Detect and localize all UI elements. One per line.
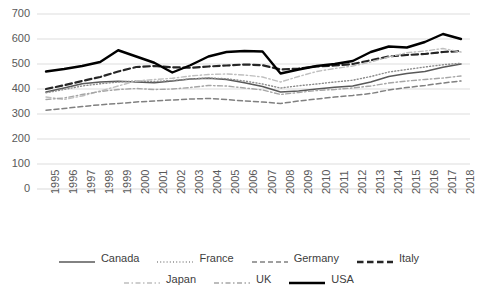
line-chart: 7006005004003002001000 19951996199719981…	[0, 0, 478, 297]
x-tick-label: 2014	[393, 170, 404, 194]
legend-swatch	[214, 278, 250, 288]
chart-legend: CanadaFranceGermanyItaly JapanUKUSA	[0, 248, 478, 297]
y-tick-label: 0	[0, 183, 30, 194]
legend-swatch-france	[157, 253, 193, 263]
x-tick-label: 2000	[140, 170, 151, 194]
x-tick-label: 2002	[176, 170, 187, 194]
legend-label: Japan	[166, 274, 196, 285]
legend-swatch-usa	[289, 274, 325, 284]
legend-item-germany[interactable]: Germany	[252, 253, 339, 264]
x-tick-label: 2003	[194, 170, 205, 194]
y-tick-label: 500	[0, 58, 30, 69]
legend-row-2: JapanUKUSA	[0, 269, 478, 289]
y-tick-label: 700	[0, 8, 30, 19]
x-tick-label: 2017	[447, 170, 458, 194]
x-tick-label: 2006	[248, 170, 259, 194]
x-tick-label: 1996	[68, 170, 79, 194]
legend-item-japan[interactable]: Japan	[124, 274, 196, 285]
legend-swatch-canada	[59, 253, 95, 263]
y-tick-label: 100	[0, 158, 30, 169]
legend-swatch	[357, 257, 393, 267]
series-line-canada	[46, 64, 461, 92]
legend-swatch-italy	[357, 253, 393, 263]
legend-item-italy[interactable]: Italy	[357, 253, 419, 264]
legend-item-france[interactable]: France	[157, 253, 233, 264]
legend-swatch	[252, 257, 288, 267]
legend-label: Germany	[294, 253, 339, 264]
x-tick-label: 2001	[158, 170, 169, 194]
series-line-usa	[46, 34, 461, 74]
x-tick-label: 2013	[375, 170, 386, 194]
legend-label: France	[199, 253, 233, 264]
legend-swatch-germany	[252, 253, 288, 263]
x-tick-label: 1995	[50, 170, 61, 194]
legend-swatch	[59, 257, 95, 267]
y-tick-label: 300	[0, 108, 30, 119]
legend-label: UK	[256, 274, 271, 285]
x-tick-label: 2011	[339, 170, 350, 194]
x-tick-label: 2012	[357, 170, 368, 194]
legend-swatch	[124, 278, 160, 288]
x-tick-label: 2016	[429, 170, 440, 194]
x-tick-label: 2005	[230, 170, 241, 194]
x-tick-label: 1997	[86, 170, 97, 194]
legend-swatch	[157, 257, 193, 267]
y-tick-label: 600	[0, 33, 30, 44]
legend-label: Canada	[101, 253, 140, 264]
x-tick-label: 2007	[267, 170, 278, 194]
plot-area	[0, 0, 478, 248]
y-tick-label: 200	[0, 133, 30, 144]
legend-swatch-japan	[124, 274, 160, 284]
x-tick-label: 2010	[321, 170, 332, 194]
x-tick-label: 2015	[411, 170, 422, 194]
legend-item-uk[interactable]: UK	[214, 274, 271, 285]
x-tick-label: 2008	[285, 170, 296, 194]
y-tick-label: 400	[0, 83, 30, 94]
x-tick-label: 2009	[303, 170, 314, 194]
legend-swatch	[289, 278, 325, 288]
x-tick-label: 2004	[212, 170, 223, 194]
series-line-uk	[46, 76, 461, 100]
x-tick-label: 2018	[465, 170, 476, 194]
legend-row-1: CanadaFranceGermanyItaly	[0, 248, 478, 268]
legend-label: Italy	[399, 253, 419, 264]
x-tick-label: 1999	[122, 170, 133, 194]
x-tick-label: 1998	[104, 170, 115, 194]
legend-item-usa[interactable]: USA	[289, 274, 354, 285]
legend-label: USA	[331, 274, 354, 285]
legend-item-canada[interactable]: Canada	[59, 253, 140, 264]
legend-swatch-uk	[214, 274, 250, 284]
